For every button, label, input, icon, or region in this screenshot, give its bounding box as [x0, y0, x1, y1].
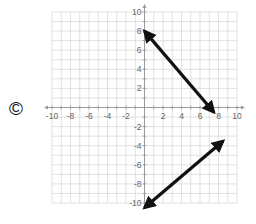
y-tick-label: -8: [134, 179, 142, 189]
y-tick-label: -10: [129, 198, 142, 208]
y-tick-label: 10: [132, 7, 142, 17]
coordinate-plane: -10-8-6-4-2246810108642-2-4-6-8-10: [0, 0, 256, 224]
x-tick-label: -6: [85, 111, 93, 121]
y-tick-label: -2: [134, 122, 142, 132]
y-tick-label: -6: [134, 160, 142, 170]
y-tick-label: 6: [137, 45, 142, 55]
upper-line: [145, 31, 214, 112]
y-tick-label: 2: [137, 83, 142, 93]
x-tick-label: -10: [46, 111, 59, 121]
x-tick-label: -8: [67, 111, 75, 121]
axes: [44, 4, 245, 207]
x-tick-label: -4: [104, 111, 112, 121]
x-axis-arrow-icon: [44, 106, 48, 110]
y-tick-label: -4: [134, 141, 142, 151]
x-tick-label: 10: [232, 111, 242, 121]
y-tick-label: 4: [137, 64, 142, 74]
x-tick-label: 4: [179, 111, 184, 121]
y-axis-arrow-icon: [143, 4, 147, 8]
x-tick-label: 6: [198, 111, 203, 121]
x-tick-label: 8: [216, 111, 221, 121]
x-tick-label: -2: [122, 111, 130, 121]
x-axis-arrow-icon: [241, 106, 245, 110]
y-tick-label: 8: [137, 26, 142, 36]
x-tick-label: 2: [161, 111, 166, 121]
